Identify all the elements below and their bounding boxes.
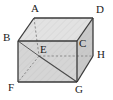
geometry-figure: A D B C E H F G	[0, 0, 113, 100]
vertex-label-H: H	[97, 49, 105, 60]
vertex-label-E: E	[40, 44, 47, 55]
vertex-label-B: B	[3, 32, 10, 43]
vertex-label-G: G	[75, 84, 83, 95]
vertex-label-A: A	[31, 3, 39, 14]
vertex-label-D: D	[96, 4, 104, 15]
vertex-label-C: C	[79, 38, 86, 49]
vertex-label-F: F	[8, 82, 14, 93]
